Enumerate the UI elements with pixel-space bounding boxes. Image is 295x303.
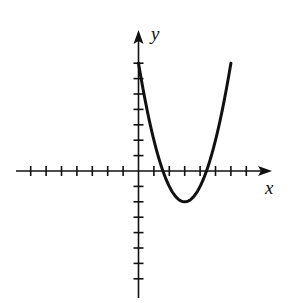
axes (16, 30, 272, 298)
y-axis-label: y (151, 24, 159, 43)
parabola-curve (139, 63, 231, 202)
coordinate-plane (0, 0, 295, 303)
x-axis-label: x (265, 178, 273, 197)
